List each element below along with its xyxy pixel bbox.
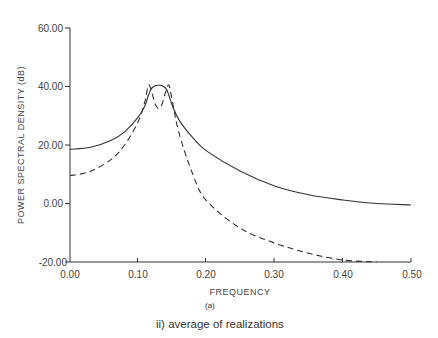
x-tick-label: 0.40 xyxy=(333,269,353,280)
y-tick-label: -20.00 xyxy=(39,257,68,268)
y-tick-label: 0.00 xyxy=(44,198,64,209)
y-tick-label: 60.00 xyxy=(38,23,63,34)
series-dashed-line xyxy=(70,85,377,262)
y-tick-label: 20.00 xyxy=(38,140,63,151)
psd-chart: 60.00 40.00 20.00 0.00 -20.00 0.00 0.10 … xyxy=(0,0,438,338)
series-solid-line xyxy=(70,85,411,205)
x-tick-label: 0.20 xyxy=(196,269,216,280)
x-tick-label: 0.00 xyxy=(60,269,80,280)
figure-caption: ii) average of realizations xyxy=(156,318,284,330)
x-tick-label: 0.50 xyxy=(402,269,422,280)
x-tick-label: 0.10 xyxy=(128,269,148,280)
series-layer xyxy=(70,85,411,262)
figure-sub-caption: (a) xyxy=(205,301,215,310)
y-tick-label: 40.00 xyxy=(38,81,63,92)
y-ticks: 60.00 40.00 20.00 0.00 -20.00 xyxy=(38,23,70,268)
x-axis-label: FREQUENCY xyxy=(209,287,270,297)
y-axis-label: POWER SPECTRAL DENSITY (dB) xyxy=(16,66,26,224)
x-tick-label: 0.30 xyxy=(264,269,284,280)
